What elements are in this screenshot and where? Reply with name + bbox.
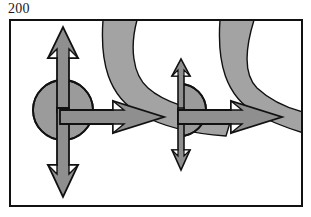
figure-root: 200 xyxy=(0,0,311,217)
figure-canvas xyxy=(0,0,311,217)
